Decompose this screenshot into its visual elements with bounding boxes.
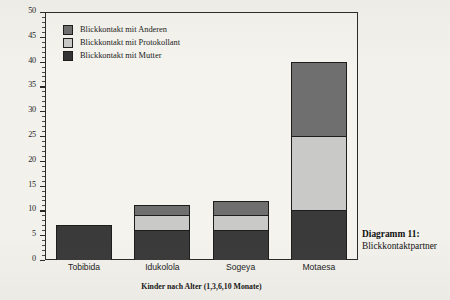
chart-legend: Blickkontakt mit Anderen Blickkontakt mi…	[63, 23, 253, 62]
bar-segment[interactable]	[291, 62, 347, 136]
y-axis-tick-label: 50	[28, 6, 36, 15]
x-axis-labels: TobibidaIdukololaSogeyaMotaesa	[45, 262, 358, 280]
bar-segment[interactable]	[291, 136, 347, 210]
y-axis-tick-label: 35	[28, 80, 36, 89]
caption-number: Diagramm 11:	[362, 228, 450, 240]
legend-item-protokollant: Blickkontakt mit Protokollant	[63, 36, 253, 49]
y-axis-tick-label: 0	[32, 254, 36, 263]
y-axis-tick-label: 15	[28, 180, 36, 189]
y-axis-tick-label: 45	[28, 31, 36, 40]
legend-swatch-anderen	[63, 25, 73, 35]
bar-segment[interactable]	[213, 230, 269, 260]
bar-segment[interactable]	[134, 230, 190, 260]
y-axis-tick-label: 10	[28, 204, 36, 213]
bar-segment[interactable]	[291, 210, 347, 260]
y-axis-tick-label: 20	[28, 155, 36, 164]
legend-item-mutter: Blickkontakt mit Mutter	[63, 49, 253, 62]
x-axis-label: Motaesa	[276, 262, 362, 272]
bar-segment[interactable]	[56, 225, 112, 260]
y-axis-tick-label: 5	[32, 229, 36, 238]
y-axis-tick-mark	[40, 260, 45, 261]
bar-group[interactable]	[134, 205, 190, 260]
y-axis-tick-label: 30	[28, 105, 36, 114]
bar-group[interactable]	[56, 225, 112, 260]
legend-swatch-mutter	[63, 51, 73, 61]
x-axis-label: Tobibida	[41, 262, 127, 272]
bar-segment[interactable]	[134, 215, 190, 230]
legend-swatch-protokollant	[63, 38, 73, 48]
bar-group[interactable]	[213, 201, 269, 261]
bar-segment[interactable]	[213, 201, 269, 216]
legend-label-anderen: Blickkontakt mit Anderen	[80, 25, 167, 34]
legend-item-anderen: Blickkontakt mit Anderen	[63, 23, 253, 36]
x-axis-label: Sogeya	[198, 262, 284, 272]
bar-segment[interactable]	[213, 215, 269, 230]
y-axis-tick-label: 40	[28, 56, 36, 65]
caption-title: Blickkontaktpartner	[362, 240, 450, 252]
figure-caption: Diagramm 11: Blickkontaktpartner	[362, 228, 450, 252]
legend-label-mutter: Blickkontakt mit Mutter	[80, 51, 161, 60]
legend-label-protokollant: Blickkontakt mit Protokollant	[80, 38, 180, 47]
bar-segment[interactable]	[134, 205, 190, 215]
chart-figure: 05101520253035404550 TobibidaIdukololaSo…	[0, 0, 450, 300]
bar-group[interactable]	[291, 62, 347, 260]
x-axis-label: Idukolola	[119, 262, 205, 272]
x-axis-title: Kinder nach Alter (1,3,6,10 Monate)	[45, 282, 358, 291]
y-axis: 05101520253035404550	[0, 12, 45, 260]
y-axis-tick-label: 25	[28, 130, 36, 139]
